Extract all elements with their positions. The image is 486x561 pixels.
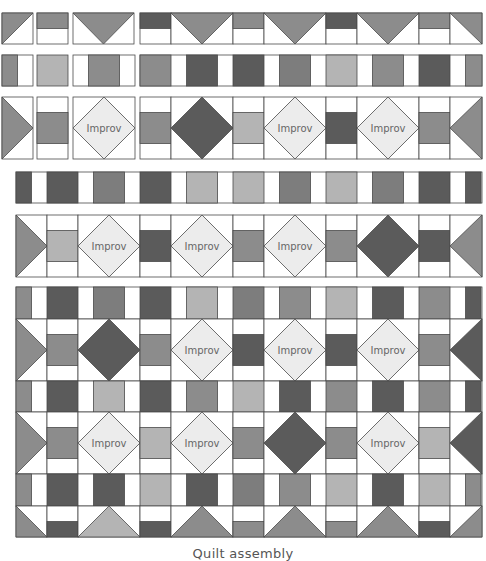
sashing-square — [94, 474, 125, 506]
center-square — [140, 113, 171, 144]
sashing-square — [47, 474, 78, 506]
center-square — [47, 335, 78, 366]
sashing-square — [187, 474, 218, 506]
sashing-rect — [233, 13, 264, 29]
improv-label: Improv — [185, 241, 220, 252]
center-square — [47, 428, 78, 459]
sashing-square — [140, 474, 171, 506]
sashing-square — [47, 172, 78, 203]
center-square — [233, 113, 264, 144]
improv-label: Improv — [87, 123, 122, 134]
improv-label: Improv — [185, 345, 220, 356]
improv-label: Improv — [92, 241, 127, 252]
sashing-square — [373, 172, 404, 203]
sashing-square — [187, 287, 218, 319]
sashing-rect — [140, 13, 171, 29]
sashing-rect — [37, 13, 68, 29]
sashing-rect — [140, 522, 171, 538]
center-square — [37, 113, 68, 144]
center-square — [233, 335, 264, 366]
sashing-square — [47, 287, 78, 319]
sashing-rect — [326, 522, 357, 538]
sashing-square — [373, 287, 404, 319]
sashing-square — [419, 474, 450, 506]
center-square — [419, 335, 450, 366]
center-square — [47, 231, 78, 262]
sashing-rect — [233, 522, 264, 538]
sashing-square — [233, 287, 264, 319]
sashing-rect — [419, 522, 450, 538]
sashing-square — [419, 172, 450, 203]
row-10-sashing — [16, 474, 482, 506]
improv-label: Improv — [371, 438, 406, 449]
square-block — [37, 55, 68, 86]
sashing-rect — [89, 55, 120, 86]
row-9-blocks: ImprovImprovImprov — [16, 412, 482, 474]
sashing-square — [419, 287, 450, 319]
center-square — [419, 113, 450, 144]
sashing-square — [280, 287, 311, 319]
row-2-sashing — [2, 55, 482, 86]
sashing-square — [466, 55, 483, 86]
row-11-bottom-border — [16, 506, 482, 537]
sashing-square — [16, 474, 32, 506]
row-5-blocks: ImprovImprovImprov — [16, 215, 482, 277]
row-8-sashing — [16, 381, 482, 412]
improv-label: Improv — [371, 345, 406, 356]
sashing-square — [280, 172, 311, 203]
sashing-rect — [2, 55, 18, 86]
sashing-square — [466, 474, 482, 506]
sashing-square — [94, 287, 125, 319]
center-square — [140, 231, 171, 262]
row-7-blocks: ImprovImprovImprov — [16, 319, 482, 381]
sashing-square — [466, 381, 482, 412]
sashing-square — [140, 172, 171, 203]
sashing-square — [187, 381, 218, 412]
sashing-square — [373, 474, 404, 506]
center-square — [326, 335, 357, 366]
sashing-rect — [47, 522, 78, 538]
sashing-square — [233, 381, 264, 412]
sashing-square — [94, 381, 125, 412]
sashing-rect — [419, 13, 450, 29]
sashing-square — [280, 474, 311, 506]
sashing-square — [280, 381, 311, 412]
row-1-top-border — [2, 13, 482, 44]
sashing-square — [187, 172, 218, 203]
sashing-square — [280, 55, 311, 86]
sashing-square — [326, 287, 357, 319]
diagram-caption: Quilt assembly — [0, 546, 486, 561]
sashing-square — [326, 55, 357, 86]
sashing-square — [419, 55, 450, 86]
center-square — [233, 428, 264, 459]
sashing-square — [233, 172, 264, 203]
sashing-square — [419, 381, 450, 412]
sashing-square — [187, 55, 218, 86]
row-4-sashing — [16, 172, 482, 203]
center-square — [326, 428, 357, 459]
improv-label: Improv — [371, 123, 406, 134]
sashing-square — [94, 172, 125, 203]
sashing-square — [140, 381, 171, 412]
sashing-square — [326, 381, 357, 412]
improv-label: Improv — [92, 438, 127, 449]
improv-label: Improv — [278, 123, 313, 134]
sashing-square — [326, 172, 357, 203]
center-square — [326, 113, 357, 144]
sashing-square — [233, 55, 264, 86]
improv-label: Improv — [185, 438, 220, 449]
sashing-square — [326, 474, 357, 506]
center-square — [419, 428, 450, 459]
sashing-square — [140, 55, 171, 86]
sashing-square — [373, 381, 404, 412]
center-square — [140, 428, 171, 459]
sashing-square — [47, 381, 78, 412]
sashing-square — [16, 287, 32, 319]
sashing-square — [466, 287, 482, 319]
improv-label: Improv — [278, 241, 313, 252]
sashing-square — [16, 172, 32, 203]
sashing-rect — [326, 13, 357, 29]
center-square — [233, 231, 264, 262]
sashing-square — [373, 55, 404, 86]
